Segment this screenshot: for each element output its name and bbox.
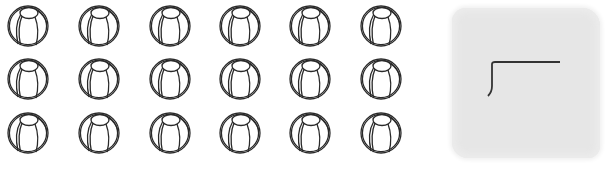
beach-ball-icon <box>217 55 263 101</box>
beach-ball-icon <box>5 55 51 101</box>
answer-box <box>452 8 600 158</box>
beach-ball-icon <box>76 2 122 48</box>
beach-ball-icon <box>358 109 404 155</box>
beach-ball-icon <box>147 109 193 155</box>
beach-ball-icon <box>358 2 404 48</box>
beach-ball-icon <box>287 55 333 101</box>
beach-ball-icon <box>5 2 51 48</box>
beach-ball-icon <box>76 109 122 155</box>
beach-ball-icon <box>217 2 263 48</box>
beach-ball-icon <box>147 2 193 48</box>
beach-ball-icon <box>287 2 333 48</box>
beach-ball-icon <box>287 109 333 155</box>
beach-ball-icon <box>147 55 193 101</box>
ball-grid <box>0 0 420 184</box>
beach-ball-icon <box>76 55 122 101</box>
long-division-bracket-icon <box>482 58 562 98</box>
beach-ball-icon <box>358 55 404 101</box>
beach-ball-icon <box>217 109 263 155</box>
beach-ball-icon <box>5 109 51 155</box>
